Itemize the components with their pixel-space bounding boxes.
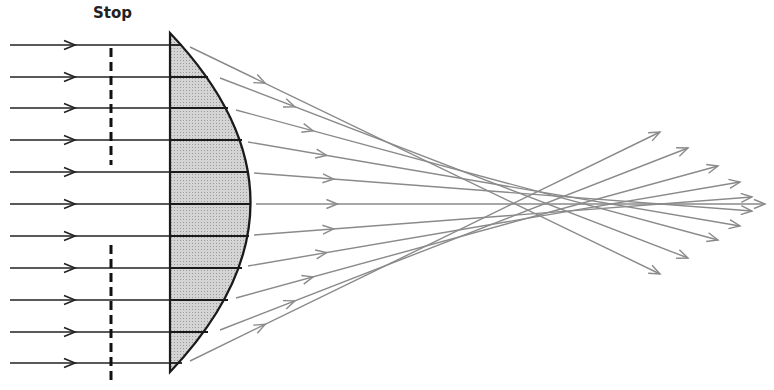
lens-body	[170, 33, 251, 372]
lens-ray-diagram	[0, 0, 774, 390]
plano-convex-lens	[170, 33, 251, 372]
refracted-rays	[190, 47, 765, 361]
refracted-ray	[190, 132, 660, 361]
